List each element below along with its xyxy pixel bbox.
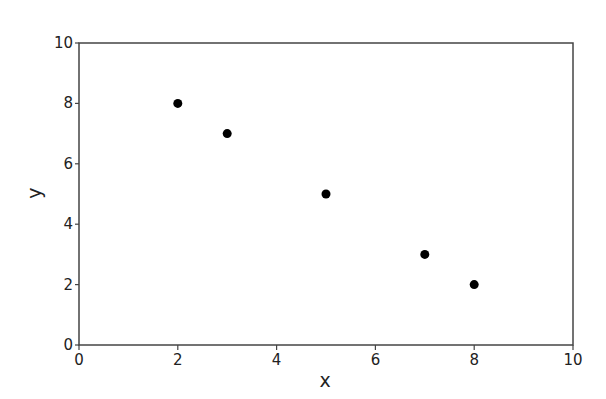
- data-point: [322, 190, 331, 199]
- data-point: [223, 129, 232, 138]
- x-tick-label: 8: [469, 351, 479, 369]
- y-axis-label: y: [23, 187, 45, 198]
- x-tick-label: 10: [563, 351, 582, 369]
- data-point: [470, 280, 479, 289]
- x-axis-ticks: 0246810: [74, 345, 582, 369]
- data-point: [420, 250, 429, 259]
- x-tick-label: 2: [173, 351, 183, 369]
- y-axis-ticks: 0246810: [54, 34, 79, 354]
- y-tick-label: 2: [63, 276, 73, 294]
- x-tick-label: 4: [272, 351, 282, 369]
- x-axis-label: x: [319, 369, 330, 391]
- y-tick-label: 6: [63, 155, 73, 173]
- x-tick-label: 0: [74, 351, 84, 369]
- x-tick-label: 6: [371, 351, 381, 369]
- data-points: [173, 99, 478, 289]
- y-tick-label: 4: [63, 215, 73, 233]
- y-tick-label: 10: [54, 34, 73, 52]
- data-point: [173, 99, 182, 108]
- scatter-chart: 0246810 0246810 x y: [0, 0, 606, 399]
- y-tick-label: 8: [63, 94, 73, 112]
- y-tick-label: 0: [63, 336, 73, 354]
